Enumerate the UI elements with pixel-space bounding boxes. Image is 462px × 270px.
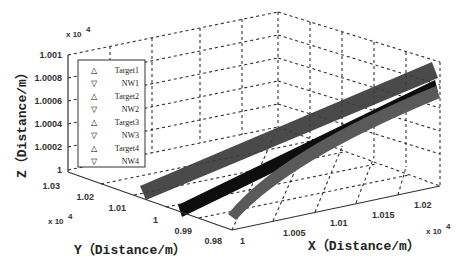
svg-text:Target2: Target2 (115, 92, 139, 101)
svg-text:NW4: NW4 (122, 157, 139, 166)
svg-text:4: 4 (446, 222, 451, 231)
svg-text:1: 1 (240, 236, 245, 246)
z-axis-title: Z（Distance/m） (14, 66, 30, 178)
svg-text:Target4: Target4 (115, 144, 139, 153)
y-axis-ticks: 1.03 1.02 1.01 1 0.99 0.98 x 104 (42, 181, 222, 246)
svg-text:1.03: 1.03 (42, 181, 60, 191)
svg-text:△: △ (91, 66, 98, 75)
svg-text:1.0002: 1.0002 (34, 142, 62, 152)
svg-text:x 10: x 10 (426, 227, 442, 236)
svg-text:0.99: 0.99 (174, 226, 192, 236)
svg-text:1.015: 1.015 (372, 210, 395, 220)
svg-text:1.02: 1.02 (76, 192, 94, 202)
svg-text:▽: ▽ (91, 131, 98, 140)
svg-text:Target1: Target1 (115, 66, 139, 75)
svg-text:x 10: x 10 (48, 217, 64, 226)
svg-text:△: △ (91, 144, 98, 153)
3d-trajectory-chart: 1.001 1.0008 1.0006 1.0004 1.0002 1 x 10… (0, 0, 462, 270)
x-axis-title: X（Distance/m） (308, 238, 420, 254)
svg-text:0.98: 0.98 (204, 236, 222, 246)
svg-text:4: 4 (86, 25, 91, 34)
svg-text:Target3: Target3 (115, 118, 139, 127)
svg-text:1.005: 1.005 (283, 228, 306, 238)
legend: △Target1 ▽NW1 △Target2 ▽NW2 △Target3 ▽NW… (78, 60, 145, 167)
svg-text:4: 4 (68, 212, 73, 221)
svg-text:1.0004: 1.0004 (34, 119, 62, 129)
svg-text:△: △ (91, 92, 98, 101)
series-target2-nw2-band (178, 80, 438, 217)
svg-text:1.01: 1.01 (108, 203, 126, 213)
svg-text:▽: ▽ (91, 157, 98, 166)
svg-text:1: 1 (153, 215, 158, 225)
svg-text:△: △ (91, 118, 98, 127)
y-axis-title: Y（Distance/m） (74, 242, 186, 258)
svg-text:1.02: 1.02 (414, 200, 432, 210)
svg-text:NW3: NW3 (122, 131, 139, 140)
svg-text:1.0006: 1.0006 (34, 96, 62, 106)
svg-text:x 10: x 10 (66, 30, 82, 39)
svg-text:1: 1 (57, 165, 62, 175)
svg-text:▽: ▽ (91, 79, 98, 88)
svg-text:1.001: 1.001 (39, 50, 62, 60)
svg-text:NW2: NW2 (122, 105, 139, 114)
svg-text:NW1: NW1 (122, 79, 139, 88)
series-target1-nw1-band (140, 62, 438, 200)
svg-text:1.0008: 1.0008 (34, 73, 62, 83)
svg-text:1.01: 1.01 (330, 218, 348, 228)
svg-text:▽: ▽ (91, 105, 98, 114)
data-series (140, 62, 440, 220)
